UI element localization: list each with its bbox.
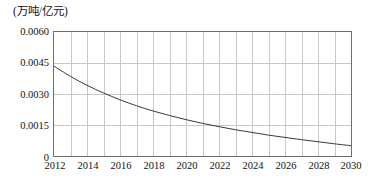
y-tick-label-0015: 0.0015 bbox=[20, 120, 49, 131]
chart-container: (万吨/亿元) 0.0060 0.0045 0.0030 0.0015 0 20… bbox=[0, 0, 375, 183]
x-tick-label-2020: 2020 bbox=[177, 160, 198, 172]
chart-unit-title: (万吨/亿元) bbox=[13, 5, 68, 18]
data-series-line bbox=[54, 66, 351, 146]
x-tick-label-2028: 2028 bbox=[309, 160, 330, 172]
x-tick-label-2022: 2022 bbox=[210, 160, 231, 172]
horizontal-gridlines bbox=[54, 64, 351, 126]
y-tick-label-0030: 0.0030 bbox=[20, 89, 49, 100]
y-tick-label-0045: 0.0045 bbox=[20, 57, 49, 68]
plot-svg bbox=[54, 32, 351, 156]
x-tick-label-2014: 2014 bbox=[78, 160, 99, 172]
y-tick-label-0060: 0.0060 bbox=[20, 26, 49, 37]
x-tick-label-2024: 2024 bbox=[243, 160, 264, 172]
x-tick-label-2016: 2016 bbox=[111, 160, 132, 172]
x-tick-label-2030: 2030 bbox=[341, 160, 362, 172]
x-tick-label-2012: 2012 bbox=[45, 160, 66, 172]
x-tick-label-2026: 2026 bbox=[276, 160, 297, 172]
plot-area bbox=[53, 31, 352, 157]
x-tick-label-2018: 2018 bbox=[144, 160, 165, 172]
